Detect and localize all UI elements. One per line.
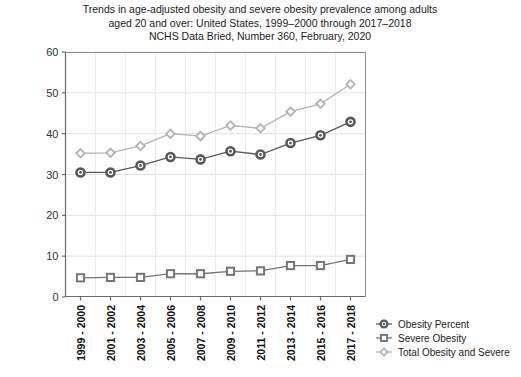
svg-text:2007 - 2008: 2007 - 2008 xyxy=(195,305,207,361)
legend-label-0: Obesity Percent xyxy=(398,319,469,330)
svg-text:30: 30 xyxy=(46,169,58,181)
chart-legend: Obesity PercentSevere ObesityTotal Obesi… xyxy=(376,319,510,358)
svg-text:2015 - 2016: 2015 - 2016 xyxy=(315,305,327,361)
x-axis-ticks xyxy=(81,297,351,301)
svg-text:2009 - 2010: 2009 - 2010 xyxy=(225,305,237,361)
svg-text:2005 - 2006: 2005 - 2006 xyxy=(165,305,177,361)
svg-text:60: 60 xyxy=(46,46,58,58)
legend-label-1: Severe Obesity xyxy=(398,333,466,344)
chart-plot-area: 0102030405060 1999 - 20002001 - 20022003… xyxy=(0,0,521,377)
svg-text:2013 - 2014: 2013 - 2014 xyxy=(285,305,297,361)
svg-text:20: 20 xyxy=(46,209,58,221)
svg-text:40: 40 xyxy=(46,128,58,140)
svg-text:50: 50 xyxy=(46,87,58,99)
legend-label-2: Total Obesity and Severe xyxy=(398,347,510,358)
svg-text:0: 0 xyxy=(52,291,58,303)
x-axis-tick-labels: 1999 - 20002001 - 20022003 - 20042005 - … xyxy=(75,305,357,361)
svg-text:1999 - 2000: 1999 - 2000 xyxy=(75,305,87,361)
svg-text:10: 10 xyxy=(46,250,58,262)
svg-text:2003 - 2004: 2003 - 2004 xyxy=(135,305,147,361)
y-axis-tick-labels: 0102030405060 xyxy=(46,46,58,303)
svg-text:2001 - 2002: 2001 - 2002 xyxy=(105,305,117,361)
svg-text:2017 - 2018: 2017 - 2018 xyxy=(345,305,357,361)
svg-text:2011 - 2012: 2011 - 2012 xyxy=(255,305,267,361)
chart-figure: Trends in age-adjusted obesity and sever… xyxy=(0,0,521,377)
